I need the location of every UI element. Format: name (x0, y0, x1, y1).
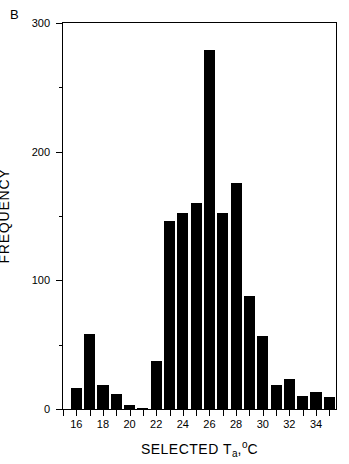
plot-frame: 010020030016182022242628303234 (62, 22, 337, 410)
y-axis-tick-label: 100 (32, 275, 50, 286)
x-axis-tick (289, 409, 290, 416)
x-axis-minor-tick (196, 409, 197, 416)
histogram-bar (177, 213, 188, 409)
histogram-bar (97, 385, 108, 409)
x-axis-tick (156, 409, 157, 416)
x-axis-minor-tick (170, 409, 171, 416)
x-axis-tick-label: 30 (257, 418, 269, 430)
x-axis-tick (130, 409, 131, 416)
y-axis-tick (56, 409, 63, 410)
x-axis-title-unit: C (248, 441, 259, 457)
y-axis-tick (56, 152, 63, 153)
panel-label: B (10, 8, 19, 21)
histogram-bar (204, 50, 215, 409)
histogram-bar (297, 396, 308, 409)
histogram-bar (217, 213, 228, 409)
y-axis-tick (56, 280, 63, 281)
x-axis-tick-label: 18 (97, 418, 109, 430)
histogram-bar (191, 203, 202, 409)
x-axis-title: SELECTED Ta,oC (62, 439, 337, 459)
y-axis-title-text: FREQUENCY (0, 168, 12, 263)
y-axis-tick-label: 200 (32, 146, 50, 157)
x-axis-tick-label: 34 (310, 418, 322, 430)
y-axis-title: FREQUENCY (0, 168, 12, 263)
y-axis-minor-tick (59, 87, 63, 88)
x-axis-tick (183, 409, 184, 416)
x-axis-minor-tick (223, 409, 224, 416)
histogram-bar (164, 221, 175, 409)
x-axis-tick-label: 16 (70, 418, 82, 430)
y-axis-tick (56, 23, 63, 24)
x-axis-tick (103, 409, 104, 416)
x-axis-minor-tick (276, 409, 277, 416)
plot-area (63, 23, 336, 409)
histogram-figure: B FREQUENCY 0100200300161820222426283032… (0, 0, 349, 464)
y-axis-tick-label: 300 (32, 18, 50, 29)
x-axis-tick-label: 28 (230, 418, 242, 430)
histogram-bar (310, 392, 321, 409)
x-axis-minor-tick (249, 409, 250, 416)
x-axis-tick (76, 409, 77, 416)
x-axis-tick-label: 32 (283, 418, 295, 430)
histogram-bar (284, 379, 295, 409)
x-axis-minor-tick (143, 409, 144, 416)
x-axis-tick-label: 20 (123, 418, 135, 430)
x-axis-tick (209, 409, 210, 416)
x-axis-tick-label: 22 (150, 418, 162, 430)
histogram-bar (257, 336, 268, 409)
x-axis-minor-tick (329, 409, 330, 416)
histogram-bar (244, 296, 255, 409)
y-axis-minor-tick (59, 345, 63, 346)
x-axis-tick-label: 24 (177, 418, 189, 430)
x-axis-tick (316, 409, 317, 416)
x-axis-tick-label: 26 (203, 418, 215, 430)
x-axis-minor-tick (90, 409, 91, 416)
x-axis-tick (263, 409, 264, 416)
x-axis-minor-tick (63, 409, 64, 416)
histogram-bar (271, 385, 282, 409)
histogram-bar (84, 334, 95, 409)
x-axis-minor-tick (303, 409, 304, 416)
y-axis-minor-tick (59, 216, 63, 217)
histogram-bar (71, 388, 82, 409)
x-axis-title-main: SELECTED T (141, 441, 232, 457)
histogram-bar (231, 183, 242, 409)
x-axis-minor-tick (116, 409, 117, 416)
y-axis-tick-label: 0 (44, 404, 50, 415)
x-axis-tick (236, 409, 237, 416)
histogram-bar (324, 397, 335, 409)
histogram-bar (111, 394, 122, 409)
histogram-bar (151, 361, 162, 409)
